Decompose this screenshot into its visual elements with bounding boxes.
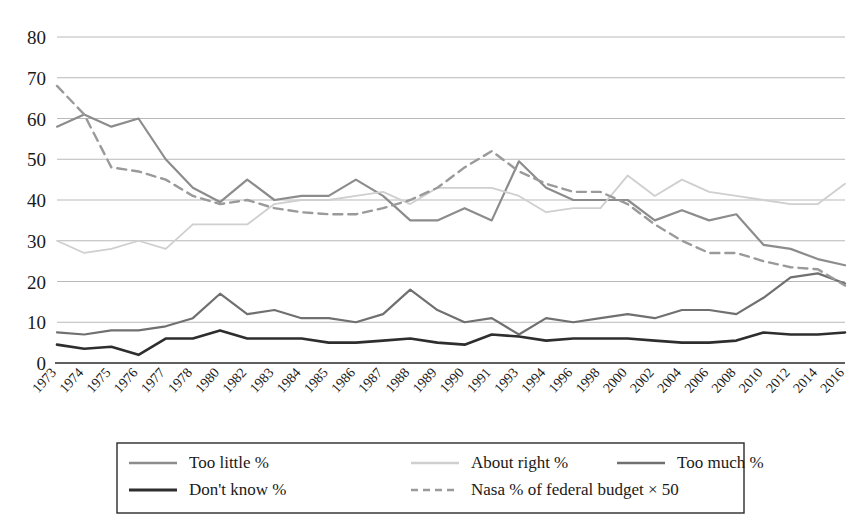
legend-item[interactable]: Too little % — [129, 453, 269, 472]
x-axis-tick: 1982 — [220, 365, 250, 396]
legend-item[interactable]: Too much % — [617, 453, 764, 472]
x-axis-tick: 1994 — [518, 365, 548, 396]
x-axis-tick-label: 1990 — [437, 365, 467, 396]
x-axis-tick: 1985 — [301, 365, 331, 396]
series-line-2 — [57, 273, 845, 334]
x-axis-tick: 2010 — [736, 365, 766, 396]
x-axis-tick: 1996 — [546, 365, 576, 396]
x-axis-tick: 2000 — [600, 365, 630, 396]
legend-item[interactable]: About right % — [411, 453, 568, 472]
x-axis-tick: 1986 — [328, 365, 358, 396]
x-axis-tick-label: 1974 — [57, 365, 87, 396]
x-axis-tick: 1984 — [274, 365, 304, 396]
x-axis-tick-label: 1996 — [546, 365, 576, 396]
x-axis-tick-label: 1978 — [165, 365, 195, 396]
x-axis-tick-label: 2010 — [736, 365, 766, 396]
x-axis-tick-label: 1976 — [111, 365, 141, 396]
x-axis-tick: 2008 — [709, 365, 739, 396]
x-axis-tick-label: 2008 — [709, 365, 739, 396]
x-axis-tick-label: 1988 — [383, 365, 413, 396]
series-line-0 — [57, 114, 845, 265]
y-axis-tick-label: 10 — [27, 312, 46, 333]
y-axis-tick-label: 80 — [27, 27, 46, 48]
x-axis-tick-label: 1985 — [301, 365, 331, 396]
x-axis-tick-label: 2002 — [627, 365, 657, 396]
x-axis-tick-label: 1982 — [220, 365, 250, 396]
x-axis-tick: 1988 — [383, 365, 413, 396]
x-axis-tick-label: 2012 — [763, 365, 793, 396]
x-axis-tick-label: 1984 — [274, 365, 304, 396]
x-axis-tick: 1974 — [57, 365, 87, 396]
legend-item[interactable]: Nasa % of federal budget × 50 — [411, 480, 679, 499]
x-axis-tick-label: 1986 — [328, 365, 358, 396]
x-axis-tick: 1977 — [138, 365, 168, 396]
legend-label: About right % — [471, 453, 568, 472]
x-axis-tick-label: 2016 — [817, 365, 847, 396]
x-axis-tick: 1978 — [165, 365, 195, 396]
x-axis-tick: 2002 — [627, 365, 657, 396]
y-axis-tick-label: 20 — [27, 272, 46, 293]
x-axis-tick-label: 1993 — [491, 365, 521, 396]
line-chart: 0102030405060708019731974197519761977197… — [0, 0, 858, 531]
x-axis-tick-label: 2000 — [600, 365, 630, 396]
x-axis-tick: 1993 — [491, 365, 521, 396]
chart-svg: 0102030405060708019731974197519761977197… — [0, 0, 858, 531]
x-axis-tick-label: 1975 — [84, 365, 114, 396]
x-axis-tick: 2004 — [654, 365, 684, 396]
x-axis-tick: 1976 — [111, 365, 141, 396]
x-axis-tick-label: 1987 — [355, 365, 385, 396]
y-axis-tick-label: 30 — [27, 231, 46, 252]
y-axis-tick-label: 60 — [27, 109, 46, 130]
x-axis-tick-label: 1983 — [247, 365, 277, 396]
x-axis-tick: 2014 — [790, 365, 820, 396]
series-line-3 — [57, 330, 845, 354]
y-axis-tick-label: 40 — [27, 190, 46, 211]
y-axis-tick-label: 70 — [27, 68, 46, 89]
x-axis-tick-label: 1973 — [29, 365, 59, 396]
x-axis-tick: 1998 — [573, 365, 603, 396]
x-axis-tick-label: 2004 — [654, 365, 684, 396]
x-axis-tick-label: 2006 — [681, 365, 711, 396]
x-axis-tick-label: 2014 — [790, 365, 820, 396]
x-axis-tick: 1987 — [355, 365, 385, 396]
x-axis-tick: 1975 — [84, 365, 114, 396]
x-axis-tick-label: 1998 — [573, 365, 603, 396]
legend-item[interactable]: Don't know % — [129, 480, 287, 499]
x-axis-tick-label: 1994 — [518, 365, 548, 396]
x-axis-tick: 1980 — [192, 365, 222, 396]
legend-label: Too much % — [677, 453, 764, 472]
x-axis-tick-label: 1980 — [192, 365, 222, 396]
x-axis-tick: 1991 — [464, 365, 494, 396]
legend-label: Too little % — [189, 453, 269, 472]
x-axis-tick: 1973 — [29, 365, 59, 396]
x-axis-tick: 1990 — [437, 365, 467, 396]
x-axis-tick: 2012 — [763, 365, 793, 396]
legend-label: Don't know % — [189, 480, 287, 499]
x-axis-tick: 2006 — [681, 365, 711, 396]
chart-container: 0102030405060708019731974197519761977197… — [0, 0, 858, 531]
x-axis-tick-label: 1977 — [138, 365, 168, 396]
legend-label: Nasa % of federal budget × 50 — [471, 480, 679, 499]
y-axis-tick-label: 50 — [27, 149, 46, 170]
x-axis-tick: 1989 — [410, 365, 440, 396]
x-axis-tick: 1983 — [247, 365, 277, 396]
series-line-4 — [57, 86, 845, 286]
x-axis-tick: 2016 — [817, 365, 847, 396]
x-axis-tick-label: 1991 — [464, 365, 494, 396]
x-axis-tick-label: 1989 — [410, 365, 440, 396]
